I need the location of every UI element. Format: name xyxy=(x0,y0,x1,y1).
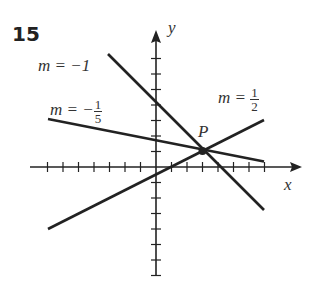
slope-label-neg1-5: m = −15 xyxy=(50,98,102,125)
x-axis-label: x xyxy=(284,175,292,195)
figure: 15 y x P m = −1 m = −15 m = 12 xyxy=(0,0,312,281)
point-p xyxy=(199,147,207,155)
slope-label-neg1: m = −1 xyxy=(38,56,90,76)
y-axis-label: y xyxy=(168,18,176,38)
slope-label-1-2: m = 12 xyxy=(218,86,259,113)
graph xyxy=(0,0,312,281)
point-label: P xyxy=(198,122,208,142)
